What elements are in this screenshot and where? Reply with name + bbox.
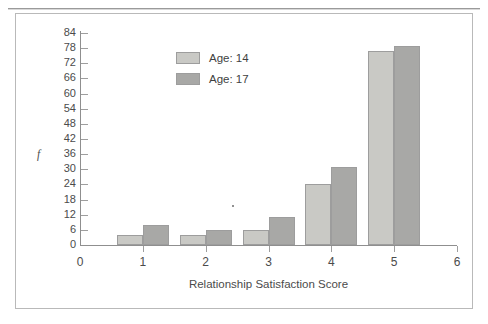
y-axis-label: f (37, 148, 40, 160)
bar-age-17-cat-1 (143, 225, 169, 245)
y-axis-tick-label-wrap: 78 (52, 42, 76, 53)
x-axis-tick (206, 246, 207, 252)
y-axis-tick (81, 215, 88, 216)
y-axis-tick-label: 48 (52, 118, 76, 129)
x-axis-tick-label: 3 (254, 255, 284, 269)
y-axis-tick-label-wrap: 12 (52, 209, 76, 220)
y-axis-tick-label-wrap: 0 (52, 239, 76, 250)
y-axis-tick (81, 184, 88, 185)
y-axis-tick-label: 0 (52, 239, 76, 250)
y-axis-tick (81, 33, 88, 34)
y-axis-tick (81, 63, 88, 64)
y-axis-tick (81, 230, 88, 231)
y-axis-tick-label-wrap: 60 (52, 88, 76, 99)
y-axis-tick-label-wrap: 42 (52, 133, 76, 144)
y-axis-tick-label-wrap: 24 (52, 178, 76, 189)
y-axis-tick-label-wrap: 48 (52, 118, 76, 129)
y-axis-tick-label-wrap: 36 (52, 148, 76, 159)
print-speck-artifact (232, 205, 234, 207)
y-axis-tick-label: 60 (52, 88, 76, 99)
bar-age-14-cat-2 (180, 235, 206, 245)
x-axis-tick-label: 0 (65, 255, 95, 269)
chart-legend: Age: 14Age: 17 (176, 49, 249, 91)
x-axis-tick-label: 6 (442, 255, 472, 269)
legend-item-label: Age: 14 (209, 52, 249, 64)
bar-age-14-cat-1 (117, 235, 143, 245)
y-axis-tick-label: 24 (52, 178, 76, 189)
x-axis-tick (143, 246, 144, 252)
y-axis-tick (81, 154, 88, 155)
y-axis-tick-label: 42 (52, 133, 76, 144)
bar-age-14-cat-4 (305, 184, 331, 245)
x-axis-tick (331, 246, 332, 252)
y-axis-tick-label: 84 (52, 27, 76, 38)
bar-age-14-cat-5 (368, 51, 394, 245)
legend-swatch-age-17 (176, 73, 200, 85)
y-axis-tick-label-wrap: 84 (52, 27, 76, 38)
y-axis-tick-label-wrap: 72 (52, 57, 76, 68)
x-axis-tick-label: 5 (379, 255, 409, 269)
y-axis-tick (81, 94, 88, 95)
y-axis-tick (81, 48, 88, 49)
x-axis-tick-label: 4 (316, 255, 346, 269)
y-axis-tick-label-wrap: 54 (52, 103, 76, 114)
y-axis-tick-label: 54 (52, 103, 76, 114)
y-axis-tick-label: 36 (52, 148, 76, 159)
y-axis-tick-label-wrap: 18 (52, 194, 76, 205)
y-axis-tick-label: 18 (52, 194, 76, 205)
legend-item-label: Age: 17 (209, 73, 249, 85)
chart-figure: 8478726660544842363024181260 0123456 f R… (0, 0, 488, 324)
y-axis-tick (81, 169, 88, 170)
plot-area: 8478726660544842363024181260 0123456 f R… (0, 0, 488, 324)
y-axis-tick (81, 200, 88, 201)
x-axis-tick (269, 246, 270, 252)
y-axis-tick (81, 109, 88, 110)
y-axis-tick (81, 139, 88, 140)
bar-age-17-cat-3 (269, 217, 295, 245)
y-axis-tick-label: 30 (52, 163, 76, 174)
x-axis-tick (457, 246, 458, 252)
legend-item: Age: 17 (176, 70, 249, 87)
y-axis-tick-label: 66 (52, 72, 76, 83)
y-axis-tick-label-wrap: 66 (52, 72, 76, 83)
y-axis-tick-label: 78 (52, 42, 76, 53)
y-axis-tick-label: 6 (52, 224, 76, 235)
y-axis-tick-label: 12 (52, 209, 76, 220)
x-axis-tick-label: 2 (191, 255, 221, 269)
y-axis-tick-label-wrap: 30 (52, 163, 76, 174)
x-axis-title: Relationship Satisfaction Score (80, 278, 457, 290)
bar-age-17-cat-4 (331, 167, 357, 245)
legend-swatch-age-14 (176, 52, 200, 64)
x-axis-tick-label: 1 (128, 255, 158, 269)
y-axis-tick-label: 72 (52, 57, 76, 68)
legend-item: Age: 14 (176, 49, 249, 66)
y-axis-tick (81, 124, 88, 125)
bar-age-17-cat-2 (206, 230, 232, 245)
y-axis-tick (81, 78, 88, 79)
y-axis-tick-label-wrap: 6 (52, 224, 76, 235)
bar-age-14-cat-3 (243, 230, 269, 245)
x-axis-tick (394, 246, 395, 252)
bar-age-17-cat-5 (394, 46, 420, 245)
